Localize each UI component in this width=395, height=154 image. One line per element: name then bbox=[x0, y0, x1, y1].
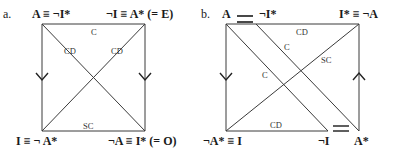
corner-bottom-left-a: I ≡ ¬ A* bbox=[16, 134, 57, 148]
edge-label-diag-sc-b: SC bbox=[321, 55, 332, 65]
diagonal-sc-b bbox=[226, 24, 359, 131]
diagonal-inner-b bbox=[256, 24, 359, 131]
edge-label-top-b: CD bbox=[296, 27, 308, 37]
edge-label-diag-left-a: CD bbox=[64, 46, 76, 56]
corner-top-right-a: ¬I ≡ A* (= E) bbox=[106, 7, 173, 21]
edge-label-bottom-b: CD bbox=[270, 120, 282, 130]
corner-top-right-b: I* ≡ ¬A bbox=[339, 7, 378, 21]
corner-top-left-a: A ≡ ¬I* bbox=[32, 7, 70, 21]
square-of-opposition-diagrams: a. A ≡ ¬I* ¬I ≡ A* (= E) I ≡ ¬ A* ¬A ≡ I… bbox=[0, 0, 395, 154]
corner-top-mid-b: ¬I* bbox=[259, 7, 277, 21]
corner-bottom-mid-b: ¬I bbox=[318, 134, 330, 148]
diagram-a: a. A ≡ ¬I* ¬I ≡ A* (= E) I ≡ ¬ A* ¬A ≡ I… bbox=[3, 7, 177, 148]
edge-label-top-a: C bbox=[91, 27, 97, 37]
corner-bottom-right-b: A* bbox=[354, 134, 369, 148]
diagram-b: b. A ¬I* I* ≡ ¬A ¬A* ≡ I ¬I A* CD C C SC… bbox=[201, 7, 378, 148]
corner-bottom-right-a: ¬A ≡ I* (= O) bbox=[108, 134, 177, 148]
diagram-b-tag: b. bbox=[201, 7, 210, 21]
edge-label-diag-right-a: CD bbox=[111, 46, 123, 56]
edge-label-diag-inner-b: C bbox=[284, 42, 290, 52]
edge-label-diag-outer-b: C bbox=[262, 70, 268, 80]
corner-bottom-left-b: ¬A* ≡ I bbox=[203, 134, 242, 148]
edge-label-bottom-a: SC bbox=[83, 121, 94, 131]
diagonal-outer-b bbox=[226, 24, 328, 131]
diagram-a-tag: a. bbox=[3, 7, 11, 21]
corner-top-left-b: A bbox=[222, 7, 231, 21]
